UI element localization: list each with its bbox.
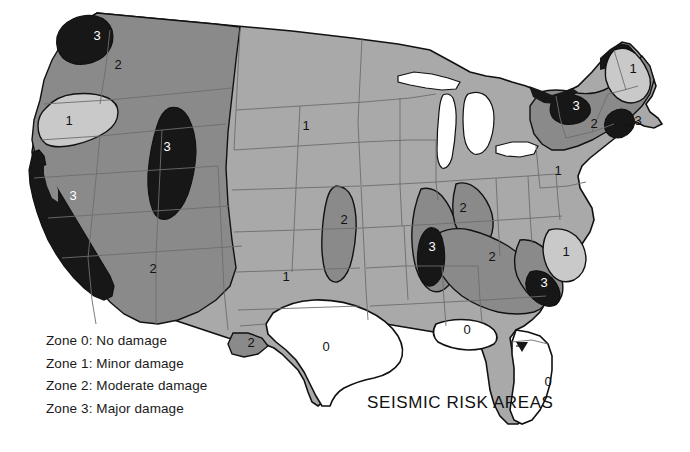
zone3-new-madrid-core [417, 228, 444, 286]
legend-row-zone2: Zone 2: Moderate damage [46, 375, 266, 398]
zone-label-newengland-2: 2 [590, 116, 597, 131]
zone-label-maine-1: 1 [629, 61, 636, 76]
zone-label-wa-puget-3: 3 [93, 28, 100, 43]
zone-label-midatlantic-1: 1 [554, 163, 561, 178]
zone-label-pnw-2: 2 [114, 57, 121, 72]
zone-label-texas-0: 0 [322, 339, 329, 354]
zone-label-carolina-1: 1 [562, 244, 569, 259]
legend: Zone 0: No damage Zone 1: Minor damage Z… [46, 330, 266, 420]
zone-label-gulf-0: 0 [463, 322, 470, 337]
zone-label-newmadrid-3: 3 [428, 239, 435, 254]
zone2-western-us [32, 13, 240, 324]
legend-row-zone0: Zone 0: No damage [46, 330, 266, 353]
zone-label-southplains-1: 1 [282, 269, 289, 284]
zone-label-southwest-2: 2 [149, 261, 156, 276]
zone-label-capeann-3: 3 [634, 113, 641, 128]
legend-row-zone3: Zone 3: Major damage [46, 398, 266, 421]
zone-label-florida-0: 0 [544, 374, 551, 389]
seismic-risk-map-figure: 32133212120322311132300 Zone 0: No damag… [0, 0, 690, 452]
map-title: SEISMIC RISK AREAS [367, 393, 554, 413]
zone-label-pnw-inset-1: 1 [65, 113, 72, 128]
legend-row-zone1: Zone 1: Minor damage [46, 353, 266, 376]
zone-label-southeast-2: 2 [488, 249, 495, 264]
zone-label-greatplains-2: 2 [340, 212, 347, 227]
zone-label-rockies-3: 3 [163, 139, 170, 154]
zone-label-california-3: 3 [69, 188, 76, 203]
water-lake-erie-ontario [496, 142, 538, 157]
zone-label-appalachia-2: 2 [459, 200, 466, 215]
zone-label-charleston-3: 3 [540, 275, 547, 290]
zone-label-adirondack-3: 3 [572, 98, 579, 113]
zone-label-northplains-1: 1 [302, 118, 309, 133]
